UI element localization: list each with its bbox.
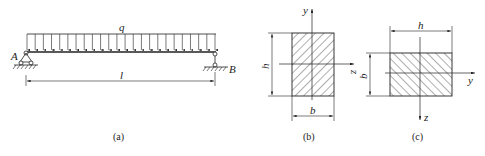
width-label-b: b [310, 104, 316, 116]
height-label-b: h [259, 63, 271, 69]
height-label-c: b [357, 73, 369, 79]
span-label: l [120, 69, 123, 81]
width-label-c: h [418, 19, 424, 31]
y-axis-label-c: y [467, 74, 473, 86]
support-a-label: A [10, 50, 18, 62]
y-axis-label-b: y [302, 4, 308, 16]
figure-b-section: y z h b (b) [259, 4, 361, 143]
cross-section-b [292, 33, 334, 96]
figure-a-beam: q A B l (a) [10, 21, 236, 143]
roller-support-icon [203, 52, 228, 71]
z-axis-label-c: z [423, 111, 429, 123]
cross-section-c [390, 53, 452, 96]
distributed-load [27, 34, 216, 50]
caption-b: (b) [303, 131, 315, 143]
figure-c-section: h b y z (c) [357, 19, 475, 143]
load-label: q [119, 21, 125, 33]
support-b-label: B [229, 63, 236, 75]
diagram-canvas: q A B l (a) y z h b (b) h b y z (c [0, 0, 485, 156]
caption-a: (a) [113, 131, 124, 143]
caption-c: (c) [412, 131, 423, 143]
